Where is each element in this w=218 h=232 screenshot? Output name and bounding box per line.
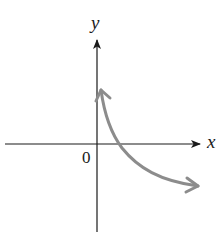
x-axis-label: x	[207, 131, 215, 153]
function-curve	[101, 90, 198, 186]
graph-canvas	[0, 0, 218, 232]
graph-figure: y x 0	[0, 0, 218, 232]
y-axis-label: y	[91, 12, 99, 34]
origin-label: 0	[82, 148, 91, 168]
